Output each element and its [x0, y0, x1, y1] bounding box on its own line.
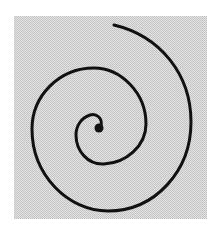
spiral-figure	[0, 0, 223, 233]
spiral-diagram	[0, 0, 223, 233]
stippled-gray-panel	[14, 16, 207, 219]
